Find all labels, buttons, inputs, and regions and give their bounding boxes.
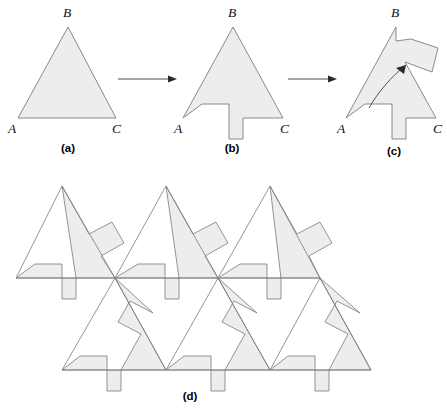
panel-c: A B C (c) xyxy=(336,5,443,157)
panel-b-label-B: B xyxy=(228,5,236,20)
arrow-b-to-c xyxy=(288,76,337,83)
tile-up-left xyxy=(16,186,124,299)
panel-c-label-A: A xyxy=(336,121,346,136)
tile-down-right xyxy=(270,278,371,391)
triangle-abc-tile-complete xyxy=(346,27,438,139)
panel-d: (d) xyxy=(16,186,371,402)
tile-up-right xyxy=(218,186,332,299)
panel-d-caption: (d) xyxy=(183,390,198,402)
panel-c-label-B: B xyxy=(391,5,399,20)
arrow-b-to-c-head xyxy=(328,76,337,83)
panel-a-caption: (a) xyxy=(61,142,75,154)
panel-b-label-A: A xyxy=(173,121,183,136)
tile-down-left xyxy=(62,278,166,391)
arrow-a-to-b-head xyxy=(168,76,177,83)
panel-b-caption: (b) xyxy=(225,142,240,154)
tile-down-mid xyxy=(166,278,270,391)
panel-a: A B C (a) xyxy=(7,5,122,154)
tessellation-figure: A B C (a) A B C (b) A B C (c) (d) xyxy=(0,0,447,412)
triangle-abc-plain xyxy=(18,27,116,118)
triangle-abc-notched-base xyxy=(183,27,283,139)
panel-c-label-C: C xyxy=(433,121,443,136)
panel-a-label-C: C xyxy=(112,121,122,136)
panel-a-label-B: B xyxy=(63,5,71,20)
panel-a-label-A: A xyxy=(7,121,17,136)
panel-b-label-C: C xyxy=(280,121,290,136)
tile-up-mid xyxy=(115,186,228,299)
panel-b: A B C (b) xyxy=(173,5,290,154)
tessellation-tiles xyxy=(16,186,371,391)
panel-c-caption: (c) xyxy=(387,145,401,157)
arrow-a-to-b xyxy=(118,76,177,83)
